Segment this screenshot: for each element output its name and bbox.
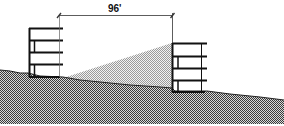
left-building — [29, 15, 63, 78]
right-building — [172, 43, 207, 93]
dimension-line — [57, 13, 175, 43]
dimension-label: 96' — [108, 3, 122, 14]
section-diagram: 96' — [0, 0, 284, 126]
